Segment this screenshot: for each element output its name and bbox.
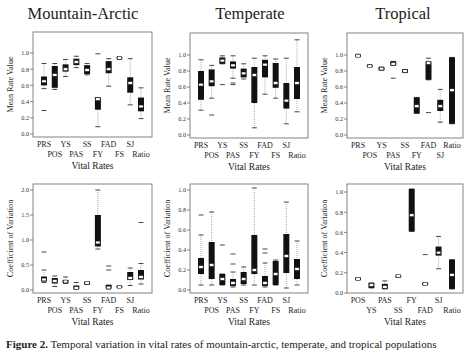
x-tick-label: FAD [101, 296, 117, 305]
y-tick-label: 1.0 [335, 188, 343, 195]
x-tick-label: FY [249, 306, 259, 315]
x-axis-label: Vital Rates [384, 162, 426, 172]
x-tick-label: POS [362, 151, 377, 160]
box-fad [106, 59, 112, 87]
box-ss [241, 64, 247, 79]
box-ratio [294, 40, 300, 112]
x-tick-label: FS [271, 306, 280, 315]
x-tick-label: POS [351, 296, 366, 305]
y-tick-label: 0.2 [21, 114, 29, 121]
box-sj [283, 58, 289, 124]
box-prs [41, 252, 47, 283]
box-plot-panel: 0.00.20.40.60.81.0Coefficient of Variati… [320, 184, 463, 327]
x-tick-label: Ratio [132, 306, 149, 315]
y-tick-label: 0.0 [335, 131, 343, 138]
plot-frame [347, 184, 463, 293]
x-tick-label: YS [376, 141, 386, 150]
x-tick-label: FS [115, 150, 124, 159]
x-tick-label: PAS [69, 306, 83, 315]
y-tick-label: 0.2 [335, 269, 343, 276]
y-tick-label: 0.2 [178, 266, 186, 273]
y-axis-label: Mean Rate Value [163, 57, 172, 114]
x-tick-label: POS [204, 306, 219, 315]
box-sj [283, 202, 289, 288]
x-tick-label: YS [217, 141, 227, 150]
box-prs [198, 60, 204, 110]
x-tick-label: YS [60, 140, 70, 149]
y-axis-label: Mean Rate Value [320, 57, 329, 114]
plot-frame [190, 184, 308, 293]
box-fy [251, 58, 257, 128]
plot-frame [33, 184, 152, 293]
y-tick-label: 1.0 [335, 51, 343, 58]
y-tick-label: 1.5 [21, 211, 29, 218]
x-tick-label: YS [366, 306, 376, 315]
box-plot-panel: 0.00.20.40.60.81.0Mean Rate ValuePRSPOSY… [163, 33, 308, 172]
x-tick-label: FY [407, 296, 417, 305]
box-pas [73, 56, 79, 67]
x-tick-label: FY [93, 306, 103, 315]
box-ss [402, 69, 408, 72]
box-fs [273, 260, 279, 285]
y-tick-label: 0.2 [178, 115, 186, 122]
x-tick-label: SJ [436, 151, 444, 160]
x-tick-label: PAS [378, 296, 392, 305]
y-tick-label: 0.0 [335, 289, 343, 296]
x-axis-label: Vital Rates [72, 317, 114, 327]
y-tick-label: 0.8 [21, 66, 29, 73]
figure-caption-label: Figure 2. [6, 338, 48, 350]
box-ratio [138, 88, 144, 119]
x-tick-label: SJ [126, 140, 134, 149]
x-tick-label: PRS [194, 141, 208, 150]
x-tick-label: PRS [194, 296, 208, 305]
y-tick-label: 0.0 [178, 131, 186, 138]
x-tick-label: Ratio [443, 306, 460, 315]
box-ratio [294, 241, 300, 285]
box-ys [219, 245, 225, 285]
box-ratio [449, 260, 455, 289]
box-pos [355, 277, 361, 280]
box-ys [368, 283, 374, 288]
x-tick-label: SS [83, 140, 92, 149]
x-tick-label: FY [249, 151, 259, 160]
y-tick-label: 0.4 [178, 246, 186, 253]
figure-caption: Figure 2. Temporal variation in vital ra… [6, 338, 436, 350]
y-tick-label: 1.0 [178, 186, 186, 193]
plot-frame [190, 33, 308, 138]
y-tick-label: 0.8 [335, 67, 343, 74]
box-plot-panel: 0.00.51.01.52.0Coefficient of VariationP… [6, 184, 152, 327]
box-fs [273, 59, 279, 98]
x-tick-label: Ratio [132, 150, 149, 159]
box-pos [209, 212, 215, 285]
x-axis-label: Vital Rates [228, 162, 270, 172]
y-tick-label: 0.6 [335, 229, 343, 236]
x-tick-label: PAS [386, 151, 400, 160]
box-ys [379, 67, 385, 70]
x-tick-label: PRS [37, 296, 51, 305]
box-pas [382, 281, 388, 289]
x-tick-label: SS [239, 296, 248, 305]
box-plot-panel: 0.00.20.40.60.81.0Coefficient of Variati… [163, 184, 308, 327]
box-fs [116, 286, 122, 289]
y-tick-label: 0.4 [21, 98, 29, 105]
box-ss [84, 282, 90, 285]
y-tick-label: 0.4 [335, 249, 343, 256]
x-tick-label: POS [47, 306, 62, 315]
box-plot-panel: 0.00.20.40.60.81.0Mean Rate ValuePRSPOSY… [320, 33, 463, 172]
x-tick-label: YS [217, 296, 227, 305]
box-prs [198, 215, 204, 285]
x-tick-label: FAD [257, 296, 273, 305]
box-pas [230, 254, 236, 287]
x-tick-label: FY [412, 151, 422, 160]
box-fy [251, 188, 257, 285]
box-ss [395, 274, 401, 277]
y-tick-label: 0.6 [178, 83, 186, 90]
y-tick-label: 0.0 [21, 130, 29, 137]
x-axis-label: Vital Rates [228, 317, 270, 327]
box-sj [436, 236, 442, 268]
y-tick-label: 1.0 [21, 236, 29, 243]
box-fy [95, 54, 101, 127]
x-axis-label: Vital Rates [384, 317, 426, 327]
x-tick-label: POS [47, 150, 62, 159]
